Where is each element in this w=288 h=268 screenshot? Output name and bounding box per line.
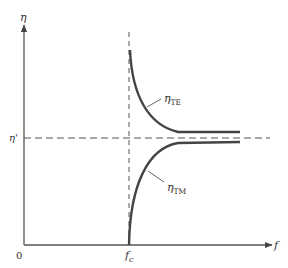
wave-impedance-diagram: η f 0 η' fc ηTE ηTM — [0, 0, 288, 268]
te-impedance-curve — [130, 50, 240, 132]
te-curve-label: ηTE — [164, 92, 181, 107]
y-axis-label: η — [20, 11, 27, 24]
eta-prime-label: η' — [9, 132, 18, 143]
tm-curve-label: ηTM — [167, 181, 187, 196]
tm-label-leader — [148, 171, 164, 182]
x-axis-label: f — [273, 239, 280, 252]
origin-label: 0 — [16, 250, 22, 261]
cutoff-frequency-label: fc — [124, 249, 134, 264]
te-label-leader — [147, 99, 161, 107]
